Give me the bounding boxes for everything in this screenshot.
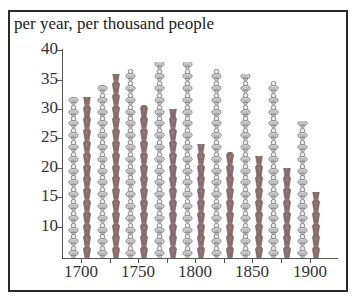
coffin-icon <box>225 246 235 258</box>
coffin-icon <box>139 105 149 117</box>
deaths-column <box>82 97 92 258</box>
x-axis <box>62 258 338 259</box>
coffin-icon <box>254 211 264 223</box>
baby-icon <box>268 234 279 246</box>
coffin-icon <box>254 156 264 163</box>
coffin-icon <box>254 164 264 176</box>
baby-icon <box>68 164 79 176</box>
y-tick-label: 25 <box>18 127 58 147</box>
baby-icon <box>68 211 79 223</box>
coffin-icon <box>82 211 92 223</box>
baby-icon <box>182 105 193 117</box>
baby-icon <box>297 187 308 199</box>
baby-icon <box>154 234 165 246</box>
baby-icon <box>240 199 251 211</box>
x-tick-label: 1750 <box>121 262 155 282</box>
baby-icon <box>211 199 222 211</box>
coffin-icon <box>225 211 235 223</box>
baby-icon <box>125 164 136 176</box>
baby-icon <box>154 140 165 152</box>
births-column <box>240 74 251 258</box>
baby-icon <box>97 85 108 92</box>
coffin-icon <box>168 187 178 199</box>
baby-icon <box>68 140 79 152</box>
baby-icon <box>268 223 279 235</box>
births-column <box>211 68 222 258</box>
births-column <box>154 62 165 258</box>
baby-icon <box>154 187 165 199</box>
y-tick-label: 40 <box>18 39 58 59</box>
baby-icon <box>97 187 108 199</box>
coffin-icon <box>111 105 121 117</box>
baby-icon <box>268 175 279 187</box>
coffin-icon <box>311 199 321 211</box>
baby-icon <box>240 74 251 81</box>
y-axis <box>62 49 63 258</box>
baby-icon <box>154 223 165 235</box>
baby-icon <box>125 211 136 223</box>
coffin-icon <box>196 144 206 151</box>
baby-icon <box>268 246 279 258</box>
baby-icon <box>297 121 308 128</box>
baby-icon <box>240 175 251 187</box>
coffin-icon <box>82 234 92 246</box>
baby-icon <box>154 175 165 187</box>
coffin-icon <box>311 246 321 258</box>
y-tick-label: 30 <box>18 98 58 118</box>
baby-icon <box>182 69 193 81</box>
baby-icon <box>154 81 165 93</box>
x-tick <box>281 258 282 263</box>
coffin-icon <box>168 152 178 164</box>
coffin-icon <box>82 175 92 187</box>
coffin-icon <box>282 223 292 235</box>
baby-icon <box>182 234 193 246</box>
baby-icon <box>268 152 279 164</box>
baby-icon <box>97 164 108 176</box>
coffin-icon <box>111 199 121 211</box>
x-tick-label: 1800 <box>178 262 212 282</box>
baby-icon <box>125 128 136 140</box>
baby-icon <box>97 211 108 223</box>
baby-icon <box>154 211 165 223</box>
baby-icon <box>154 62 165 69</box>
baby-icon <box>125 152 136 164</box>
coffin-icon <box>111 152 121 164</box>
coffin-icon <box>139 234 149 246</box>
coffin-icon <box>139 211 149 223</box>
coffin-icon <box>168 211 178 223</box>
baby-icon <box>68 152 79 164</box>
baby-icon <box>125 140 136 152</box>
baby-icon <box>182 211 193 223</box>
coffin-icon <box>168 116 178 128</box>
births-column <box>182 62 193 258</box>
baby-icon <box>240 93 251 105</box>
baby-icon <box>125 81 136 93</box>
baby-icon <box>297 128 308 140</box>
baby-icon <box>154 164 165 176</box>
baby-icon <box>182 152 193 164</box>
baby-icon <box>297 152 308 164</box>
coffin-icon <box>168 223 178 235</box>
births-column <box>97 85 108 258</box>
deaths-column <box>196 144 206 258</box>
coffin-icon <box>196 234 206 246</box>
x-tick-label: 1900 <box>293 262 327 282</box>
baby-icon <box>211 116 222 128</box>
coffin-icon <box>139 128 149 140</box>
coffin-icon <box>111 234 121 246</box>
coffin-icon <box>82 152 92 164</box>
baby-icon <box>297 223 308 235</box>
baby-icon <box>154 199 165 211</box>
baby-icon <box>125 199 136 211</box>
baby-icon <box>211 223 222 235</box>
baby-icon <box>268 199 279 211</box>
baby-icon <box>211 93 222 105</box>
coffin-icon <box>254 223 264 235</box>
coffin-icon <box>139 223 149 235</box>
deaths-column <box>282 168 292 258</box>
coffin-icon <box>225 199 235 211</box>
baby-icon <box>240 128 251 140</box>
coffin-icon <box>139 199 149 211</box>
births-column <box>268 80 279 259</box>
baby-icon <box>125 69 136 81</box>
